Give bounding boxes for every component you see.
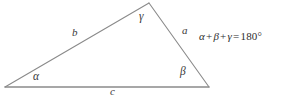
geometry-figure: α β γ a b c α+β+γ=180°: [0, 0, 285, 98]
angle-label-gamma: γ: [139, 11, 144, 23]
angle-label-beta: β: [180, 66, 186, 78]
side-label-a: a: [182, 25, 188, 36]
side-label-c: c: [110, 86, 115, 97]
angle-sum-equation: α+β+γ=180°: [199, 30, 262, 42]
angle-label-alpha: α: [33, 71, 39, 83]
equation-value: 180°: [240, 30, 262, 42]
side-label-b: b: [72, 27, 78, 38]
triangle-side-b-line: [5, 3, 149, 87]
triangle-side-a-line: [149, 3, 209, 87]
